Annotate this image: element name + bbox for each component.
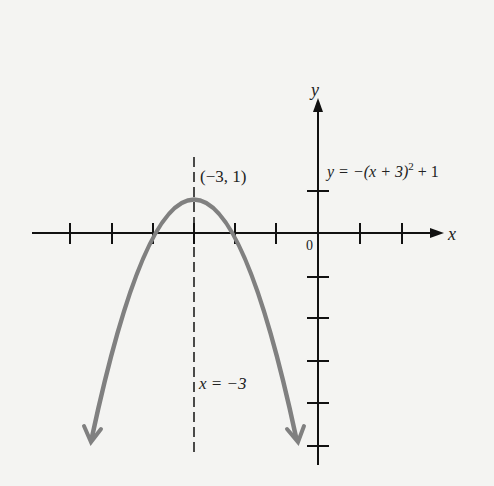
equation-label: y = −(x + 3)2 + 1 — [325, 160, 439, 181]
x-axis-arrow-icon — [430, 228, 444, 238]
parabola-graph: x 0 y (−3, 1) x = −3 y = −(x + 3)2 + 1 — [0, 0, 494, 486]
x-axis: x 0 — [32, 223, 456, 253]
y-axis-label: y — [309, 80, 319, 100]
x-axis-label: x — [447, 224, 456, 244]
origin-label: 0 — [306, 238, 313, 253]
symmetry-label: x = −3 — [198, 374, 247, 393]
vertex-label: (−3, 1) — [200, 167, 246, 186]
y-axis: y — [307, 80, 329, 465]
y-axis-arrow-icon — [313, 98, 323, 112]
